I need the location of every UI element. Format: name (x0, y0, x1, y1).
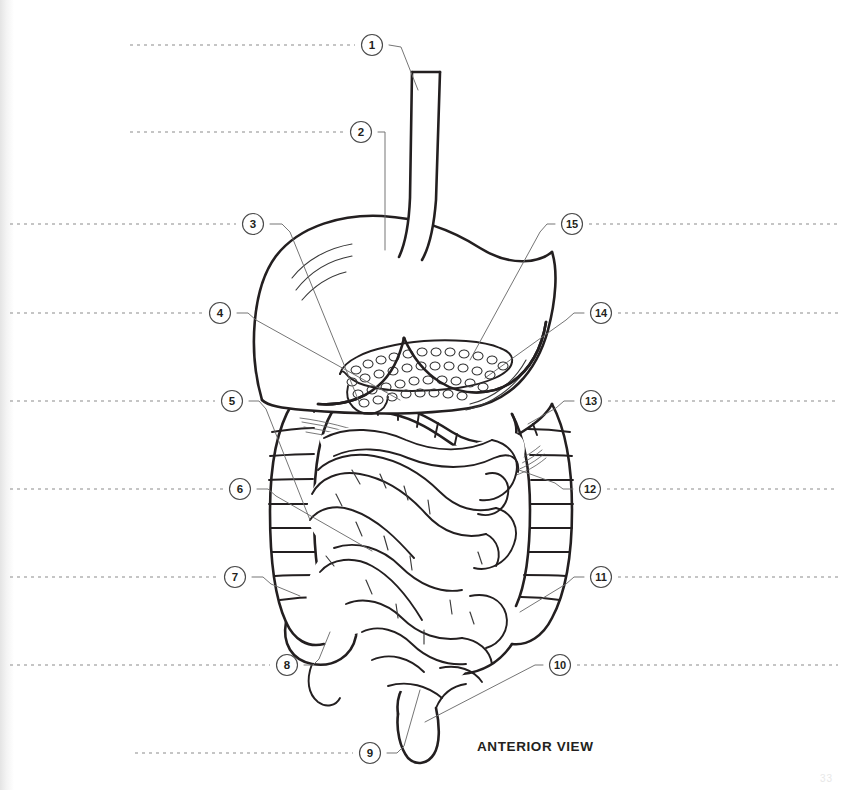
marker-number-3: 3 (250, 218, 256, 230)
worksheet-page: .ink { fill:none; stroke:#231f20; stroke… (0, 0, 845, 790)
number-marker-11[interactable]: 11 (591, 567, 612, 588)
marker-number-15: 15 (566, 218, 578, 230)
marker-number-2: 2 (358, 126, 364, 138)
leader-line-9 (387, 690, 420, 753)
marker-number-7: 7 (232, 571, 238, 583)
number-marker-2[interactable]: 2 (351, 122, 372, 143)
marker-number-1: 1 (369, 39, 376, 51)
marker-number-9: 9 (367, 747, 373, 759)
number-marker-13[interactable]: 13 (581, 391, 602, 412)
page-folio: 33 (820, 773, 833, 784)
number-marker-14[interactable]: 14 (591, 303, 612, 324)
marker-number-11: 11 (595, 571, 607, 583)
number-marker-5[interactable]: 5 (222, 391, 243, 412)
number-marker-6[interactable]: 6 (230, 479, 251, 500)
marker-number-12: 12 (584, 483, 596, 495)
leader-line-5 (249, 401, 310, 520)
number-marker-10[interactable]: 10 (550, 655, 571, 676)
marker-number-6: 6 (237, 483, 243, 495)
anterior-view-caption: ANTERIOR VIEW (477, 739, 594, 754)
digestive-system-illustration: .ink { fill:none; stroke:#231f20; stroke… (0, 0, 845, 790)
number-marker-12[interactable]: 12 (580, 479, 601, 500)
leader-line-8 (304, 632, 330, 665)
number-marker-9[interactable]: 9 (360, 743, 381, 764)
number-marker-1[interactable]: 1 (362, 35, 383, 56)
number-marker-7[interactable]: 7 (225, 567, 246, 588)
marker-number-14: 14 (595, 307, 608, 319)
number-marker-3[interactable]: 3 (243, 214, 264, 235)
number-marker-8[interactable]: 8 (277, 655, 298, 676)
marker-number-8: 8 (284, 659, 291, 671)
leader-line-11 (520, 577, 584, 612)
number-marker-15[interactable]: 15 (562, 214, 583, 235)
small-intestine (306, 427, 524, 698)
marker-number-13: 13 (585, 395, 597, 407)
marker-number-5: 5 (229, 395, 236, 407)
number-marker-4[interactable]: 4 (210, 303, 231, 324)
marker-number-4: 4 (217, 307, 224, 319)
marker-number-10: 10 (554, 659, 566, 671)
